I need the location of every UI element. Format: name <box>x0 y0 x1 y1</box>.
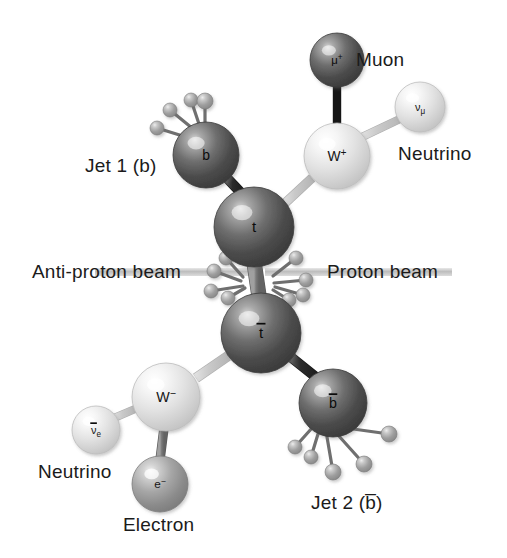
wminus-to-antinue <box>114 409 135 418</box>
jet-track-sphere <box>184 93 198 107</box>
particle-antitop-quark[interactable]: t <box>221 293 301 373</box>
jet-track-sphere <box>296 288 310 302</box>
particle-b-quark[interactable]: b <box>173 122 239 188</box>
callout-label-electron: Electron <box>123 514 194 535</box>
particle-top-quark[interactable]: t <box>214 187 294 267</box>
particle-antib-quark[interactable]: b <box>299 369 367 437</box>
particle-neutrino-mu[interactable]: νμ <box>395 82 445 132</box>
particle-electron[interactable]: e− <box>132 456 188 512</box>
callout-label-proton-beam: Proton beam <box>327 261 438 282</box>
wplus-to-numu <box>362 118 402 137</box>
specular-highlight <box>232 205 253 220</box>
callout-label-jet1: Jet 1 (b) <box>85 155 157 176</box>
jet-track-sphere <box>381 426 397 442</box>
particle-symbol: b <box>202 147 210 163</box>
callout-label-jet2: Jet 2 (b̅) <box>311 492 383 513</box>
jet-track-sphere <box>221 291 235 305</box>
jet-track-sphere <box>325 464 341 480</box>
jet-track-sphere <box>289 251 303 265</box>
callout-label-neutrino-e: Neutrino <box>38 461 111 482</box>
wplus-to-top <box>283 178 312 205</box>
jet-track-sphere <box>150 121 164 135</box>
figure-canvas: μ+νμW+bttW−νee−b MuonNeutrinoJet 1 (b)An… <box>0 0 507 558</box>
jet-track-sphere <box>288 440 302 454</box>
jet-track-sphere <box>304 450 318 464</box>
particle-w-minus[interactable]: W− <box>132 363 200 431</box>
callout-label-neutrino-mu: Neutrino <box>398 143 471 164</box>
callout-label-muon: Muon <box>356 49 404 70</box>
jet-track-sphere <box>207 264 221 278</box>
jet-track-sphere <box>204 284 218 298</box>
wminus-to-electron <box>160 428 164 460</box>
callout-label-antiproton-beam: Anti-proton beam <box>32 261 181 282</box>
antitop-to-wminus <box>196 356 228 378</box>
particle-decay-diagram: μ+νμW+bttW−νee−b MuonNeutrinoJet 1 (b)An… <box>0 0 507 558</box>
jet-track-sphere <box>163 103 177 117</box>
specular-highlight <box>239 311 260 326</box>
particle-w-plus[interactable]: W+ <box>304 123 370 189</box>
jet-track-sphere <box>197 93 213 109</box>
particle-antineutrino-e[interactable]: νe <box>72 406 120 454</box>
jet-track-sphere <box>356 456 372 472</box>
particle-symbol: b <box>329 395 337 411</box>
jet-track-sphere <box>299 273 313 287</box>
